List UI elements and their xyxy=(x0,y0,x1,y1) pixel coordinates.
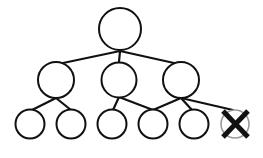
tree-diagram xyxy=(0,0,263,158)
edge-root-m2 xyxy=(119,51,120,62)
tree-node-m2 xyxy=(102,63,137,98)
edge-m2-l3 xyxy=(113,97,119,110)
tree-node-l1 xyxy=(16,110,45,139)
tree-node-l2 xyxy=(57,110,86,139)
tree-node-m1 xyxy=(38,62,74,98)
edge-m1-l2 xyxy=(56,98,71,110)
edge-root-m3 xyxy=(120,51,174,63)
tree-node-m3 xyxy=(163,62,199,98)
tree-nodes xyxy=(16,8,250,139)
edge-m3-l4 xyxy=(153,98,181,110)
tree-node-l5 xyxy=(180,110,209,139)
tree-node-root xyxy=(99,8,141,50)
edge-m1-l1 xyxy=(32,98,56,110)
tree-node-l4 xyxy=(139,110,168,139)
edge-m3-l6 xyxy=(181,98,233,110)
tree-node-l3 xyxy=(98,110,127,139)
edge-m2-l4 xyxy=(119,97,153,110)
edge-root-m1 xyxy=(63,51,120,63)
